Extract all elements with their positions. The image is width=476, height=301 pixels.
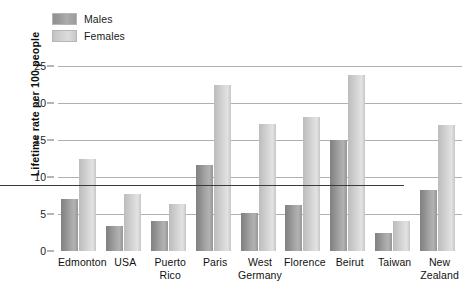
y-tick-label: 15 xyxy=(24,134,46,146)
legend-item-males: Males xyxy=(52,12,125,25)
bar-group xyxy=(103,66,148,251)
bar-males xyxy=(151,221,168,251)
y-tick-label: 20 xyxy=(24,97,46,109)
bar-females xyxy=(348,75,365,251)
x-tick-label: Taiwan xyxy=(372,256,417,269)
bar-group xyxy=(372,66,417,251)
bar-females xyxy=(393,221,410,251)
y-tick-mark xyxy=(47,66,54,67)
x-tick-label: Edmonton xyxy=(58,256,103,269)
bar-group xyxy=(148,66,193,251)
bar-males xyxy=(196,165,213,251)
bar-group xyxy=(58,66,103,251)
bar-males xyxy=(285,205,302,251)
bar-chart: Males Females Lifetime rate per 100 peop… xyxy=(0,0,476,301)
bar-females xyxy=(259,124,276,251)
x-tick-label: Paris xyxy=(193,256,238,269)
bar-males xyxy=(330,140,347,251)
x-axis-labels: EdmontonUSAPuertoRicoParisWestGermanyFlo… xyxy=(58,256,462,301)
bar-group xyxy=(417,66,462,251)
y-tick-mark xyxy=(47,177,54,178)
legend-swatch-females xyxy=(52,30,77,42)
y-tick-label: 5 xyxy=(24,208,46,220)
bar-females xyxy=(79,159,96,252)
y-tick-label: 10 xyxy=(24,171,46,183)
y-tick-mark xyxy=(47,103,54,104)
bar-females xyxy=(214,85,231,252)
y-tick-mark xyxy=(47,251,54,252)
bar-males xyxy=(61,199,78,251)
bar-females xyxy=(438,125,455,251)
x-tick-label: USA xyxy=(103,256,148,269)
bar-males xyxy=(241,213,258,251)
y-axis: 0510152025 xyxy=(0,66,58,252)
y-tick-mark xyxy=(47,214,54,215)
plot-area xyxy=(58,66,462,251)
y-tick-label: 25 xyxy=(24,60,46,72)
legend-swatch-males xyxy=(52,13,77,25)
x-tick-label: WestGermany xyxy=(238,256,283,282)
x-tick-label: NewZealand xyxy=(417,256,462,282)
bar-females xyxy=(124,194,141,251)
chart-legend: Males Females xyxy=(52,12,125,42)
x-tick-label: Florence xyxy=(282,256,327,269)
bar-males xyxy=(420,190,437,251)
bar-females xyxy=(169,204,186,251)
y-tick-label: 0 xyxy=(24,245,46,257)
bar-group xyxy=(282,66,327,251)
legend-label-males: Males xyxy=(84,13,113,25)
x-axis-line xyxy=(0,185,404,186)
bar-males xyxy=(375,233,392,251)
bar-group xyxy=(238,66,283,251)
x-tick-label: PuertoRico xyxy=(148,256,193,282)
bar-group xyxy=(193,66,238,251)
bar-group xyxy=(327,66,372,251)
x-tick-label: Beirut xyxy=(327,256,372,269)
legend-label-females: Females xyxy=(84,30,125,42)
bar-males xyxy=(106,226,123,251)
y-tick-mark xyxy=(47,140,54,141)
legend-item-females: Females xyxy=(52,29,125,42)
